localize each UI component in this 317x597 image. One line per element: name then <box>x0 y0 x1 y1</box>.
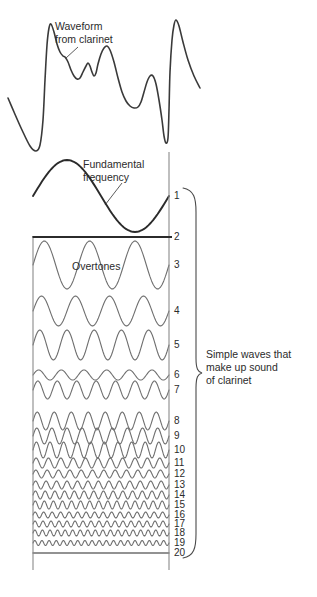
harmonic-wave-17 <box>33 521 169 527</box>
harmonic-wave-9 <box>33 428 169 444</box>
waveform-leader-line <box>66 47 78 58</box>
harmonic-number-2: 2 <box>174 231 180 242</box>
harmonic-number-3: 3 <box>174 259 180 270</box>
harmonic-wave-16 <box>33 512 169 518</box>
harmonic-wave-18 <box>33 530 169 536</box>
overtone-frame <box>33 152 169 570</box>
harmonic-number-11: 11 <box>174 457 184 468</box>
harmonic-number-4: 4 <box>174 305 180 316</box>
harmonic-number-20: 20 <box>174 547 185 558</box>
harmonic-wave-4 <box>33 296 169 326</box>
harmonic-wave-8 <box>33 412 169 430</box>
harmonic-number-7: 7 <box>174 384 180 395</box>
bracket-caption: Simple waves that make up sound of clari… <box>206 348 291 386</box>
harmonic-number-5: 5 <box>174 339 180 350</box>
harmonic-wave-11 <box>33 458 169 468</box>
harmonic-number-12: 12 <box>174 468 185 479</box>
harmonic-wave-13 <box>33 481 169 489</box>
harmonic-wave-7 <box>33 381 169 399</box>
harmonic-waves-group <box>33 160 169 553</box>
waveform-label: Waveform from clarinet <box>55 20 113 46</box>
figure-canvas <box>0 0 317 597</box>
harmonic-number-6: 6 <box>174 369 180 380</box>
fundamental-leader-line <box>105 183 122 205</box>
clarinet-harmonics-figure: Waveform from clarinet Fundamental frequ… <box>0 0 317 597</box>
harmonic-number-8: 8 <box>174 415 180 426</box>
harmonic-number-1: 1 <box>174 190 180 201</box>
overtones-label: Overtones <box>72 260 120 273</box>
harmonic-wave-19 <box>33 541 169 546</box>
harmonic-wave-10 <box>33 442 169 458</box>
harmonic-bracket <box>183 188 202 558</box>
harmonic-number-10: 10 <box>174 444 185 455</box>
harmonic-wave-12 <box>33 470 169 478</box>
harmonic-wave-6 <box>33 370 169 380</box>
fundamental-frequency-label: Fundamental frequency <box>83 158 144 184</box>
harmonic-wave-14 <box>33 491 169 499</box>
harmonic-number-9: 9 <box>174 430 180 441</box>
harmonic-wave-5 <box>33 330 169 360</box>
harmonic-wave-15 <box>33 501 169 509</box>
